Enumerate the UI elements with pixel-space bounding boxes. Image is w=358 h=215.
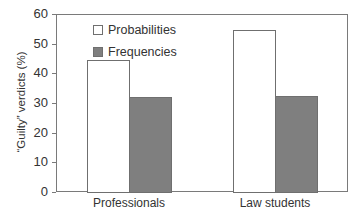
x-tick-label-law-students: Law students — [215, 196, 335, 210]
legend-swatch-frequencies — [93, 47, 103, 57]
y-tick-label: 10 — [4, 155, 48, 169]
bar-probabilities-law-students — [233, 30, 276, 193]
y-tick-label: 20 — [4, 126, 48, 140]
y-tick-label: 60 — [4, 7, 48, 21]
bar-frequencies-law-students — [275, 96, 318, 193]
y-tick-label: 30 — [4, 96, 48, 110]
legend-label: Probabilities — [108, 23, 176, 37]
legend-item-frequencies: Frequencies — [93, 41, 177, 63]
legend: Probabilities Frequencies — [93, 19, 177, 63]
y-tick-label: 0 — [4, 185, 48, 199]
legend-swatch-probabilities — [93, 25, 103, 35]
x-tick-label-professionals: Professionals — [69, 196, 189, 210]
y-tick-label: 50 — [4, 37, 48, 51]
legend-item-probabilities: Probabilities — [93, 19, 177, 41]
y-tick-label: 40 — [4, 66, 48, 80]
bar-probabilities-professionals — [87, 60, 130, 193]
legend-label: Frequencies — [108, 45, 177, 59]
bar-frequencies-professionals — [129, 97, 172, 193]
y-tick — [52, 192, 56, 193]
